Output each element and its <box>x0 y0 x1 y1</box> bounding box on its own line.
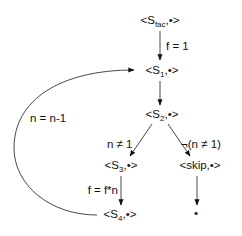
edge-s2-s3 <box>130 124 152 156</box>
node-s4: <S4,•> <box>104 208 137 223</box>
edge-label-not-n-ne-1: ¬(n ≠ 1) <box>181 138 221 150</box>
node-terminal: • <box>194 207 198 219</box>
transition-diagram: <Sfac,•> <S1,•> <S2,•> <S3,•> <skip,•> <… <box>0 0 242 236</box>
node-sfac: <Sfac,•> <box>141 14 180 29</box>
node-skip: <skip,•> <box>179 159 220 171</box>
edge-label-n-decrement: n = n-1 <box>30 112 66 124</box>
node-s3: <S3,•> <box>105 159 138 174</box>
edge-label-f-mult: f = f*n <box>88 184 118 196</box>
node-s2: <S2,•> <box>146 108 179 123</box>
edge-label-n-ne-1: n ≠ 1 <box>107 138 133 150</box>
node-s1: <S1,•> <box>146 64 179 79</box>
edge-label-f-init: f = 1 <box>166 40 189 52</box>
